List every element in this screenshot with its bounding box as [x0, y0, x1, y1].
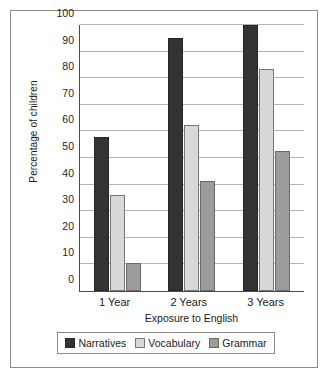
y-axis-title: Percentage of children — [28, 62, 39, 202]
y-axis-tick-label: 10 — [62, 246, 74, 258]
x-axis-tick-label: 1 Year — [99, 296, 130, 308]
y-axis-tick-label: 90 — [62, 34, 74, 46]
legend-label: Vocabulary — [148, 337, 200, 349]
y-axis-tick-label: 50 — [62, 140, 74, 152]
bar-group — [243, 25, 290, 291]
chart-legend: NarrativesVocabularyGrammar — [57, 332, 275, 354]
legend-label: Grammar — [222, 337, 266, 349]
x-axis-tick-label: 2 Years — [170, 296, 207, 308]
legend-item[interactable]: Vocabulary — [135, 337, 200, 349]
y-axis-tick-label: 100 — [56, 7, 74, 19]
chart-figure: Percentage of children 01020304050607080… — [10, 10, 318, 368]
bar-group — [94, 25, 141, 291]
bar — [94, 137, 109, 291]
bar — [126, 263, 141, 291]
legend-item[interactable]: Grammar — [209, 337, 266, 349]
bar — [184, 125, 199, 291]
y-axis-tick-label: 0 — [68, 273, 74, 285]
legend-item[interactable]: Narratives — [65, 337, 126, 349]
x-axis-title: Exposure to English — [79, 312, 304, 324]
y-axis-tick-label: 60 — [62, 113, 74, 125]
y-axis-tick-label: 40 — [62, 167, 74, 179]
bar — [200, 181, 215, 291]
bar — [275, 151, 290, 291]
y-axis-tick-label: 20 — [62, 220, 74, 232]
x-axis-tick-labels: 1 Year2 Years3 Years — [79, 296, 304, 308]
y-axis-tick-label: 70 — [62, 87, 74, 99]
y-axis-tick-label: 30 — [62, 193, 74, 205]
bar — [110, 195, 125, 291]
legend-swatch-icon — [135, 338, 145, 348]
bar — [243, 25, 258, 291]
bar — [259, 69, 274, 291]
plot-area: 0102030405060708090100 — [79, 25, 304, 292]
y-axis-tick-label: 80 — [62, 60, 74, 72]
x-axis-tick-label: 3 Years — [247, 296, 284, 308]
legend-swatch-icon — [65, 338, 75, 348]
bar-groups — [80, 25, 304, 291]
legend-swatch-icon — [209, 338, 219, 348]
bar-group — [168, 25, 215, 291]
bar — [168, 38, 183, 291]
legend-label: Narratives — [78, 337, 126, 349]
